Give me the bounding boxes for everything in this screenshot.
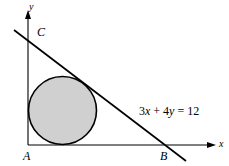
x-axis-arrowhead-icon [207,142,216,148]
equation-constant: 12 [187,104,199,118]
point-label-a: A [23,150,30,162]
line-equation-label: 3x + 4y = 12 [139,105,199,117]
x-axis-label: x [219,139,223,149]
inscribed-circle [29,77,97,145]
figure-canvas [0,0,229,166]
equation-equals: = [174,104,187,118]
point-label-c: C [37,26,45,38]
point-label-b: B [160,150,167,162]
equation-plus: + [150,104,163,118]
geometry-figure: y x C A B 3x + 4y = 12 [0,0,229,166]
y-axis-label: y [29,2,33,12]
